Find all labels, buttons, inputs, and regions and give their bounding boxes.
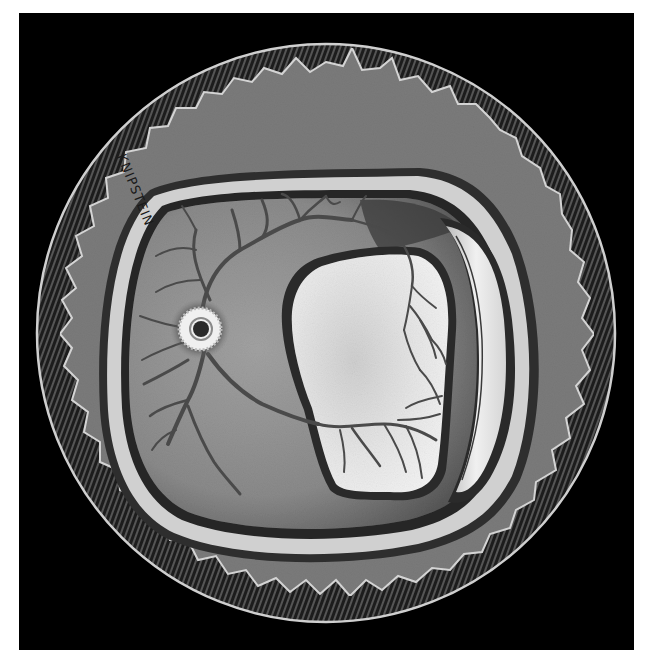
optic-disc — [170, 299, 230, 359]
fundus-illustration: KNIPSTEIN — [0, 0, 651, 660]
